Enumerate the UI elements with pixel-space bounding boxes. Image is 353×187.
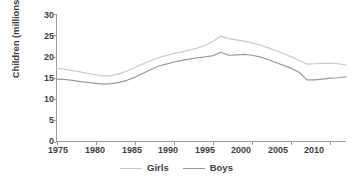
line-chart: Children (millions) 30 25 20 15 10 5 0 1… <box>0 0 353 187</box>
legend-swatch-boys <box>183 168 205 169</box>
axis-lines <box>57 14 347 142</box>
plot-area <box>0 0 353 187</box>
legend-label-boys: Boys <box>210 163 233 173</box>
y-axis-ticks <box>53 15 57 143</box>
legend-label-girls: Girls <box>147 163 169 173</box>
series-line-girls <box>57 36 347 76</box>
legend-item-boys: Boys <box>183 163 233 173</box>
chart-legend: Girls Boys <box>0 163 353 173</box>
series-line-boys <box>57 52 347 84</box>
legend-swatch-girls <box>120 168 142 169</box>
legend-item-girls: Girls <box>120 163 169 173</box>
x-axis-ticks <box>58 142 331 146</box>
